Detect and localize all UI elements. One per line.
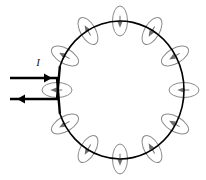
figure-container: I xyxy=(0,0,206,180)
figure-background xyxy=(0,0,206,180)
physics-diagram-canvas: I xyxy=(0,0,206,180)
